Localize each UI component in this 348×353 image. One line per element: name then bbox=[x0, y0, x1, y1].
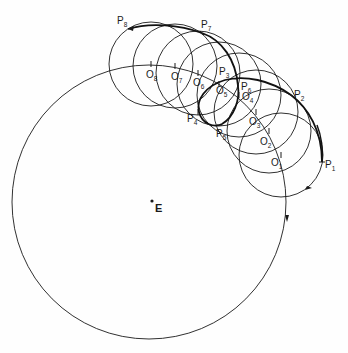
label-O1: O1 bbox=[271, 157, 283, 170]
label-O3: O3 bbox=[249, 116, 261, 129]
epicycle-diagram: E O1 O2 O3 O4 O5 O6 O7 O8 P1 P2 P3 P4 P5… bbox=[0, 0, 348, 353]
arrow-icon bbox=[305, 186, 312, 190]
label-E: E bbox=[155, 202, 162, 214]
earth-point bbox=[150, 199, 153, 202]
label-P8: P8 bbox=[117, 15, 128, 28]
label-O6: O6 bbox=[193, 77, 205, 90]
label-P1: P1 bbox=[325, 159, 336, 172]
label-P5: P5 bbox=[216, 128, 227, 141]
label-P2: P2 bbox=[294, 89, 305, 102]
diagram-canvas: E O1 O2 O3 O4 O5 O6 O7 O8 P1 P2 P3 P4 P5… bbox=[0, 0, 348, 353]
arrow-icon bbox=[285, 215, 289, 222]
label-P7: P7 bbox=[201, 19, 212, 32]
label-O5: O5 bbox=[216, 85, 228, 98]
label-P3: P3 bbox=[219, 66, 230, 79]
